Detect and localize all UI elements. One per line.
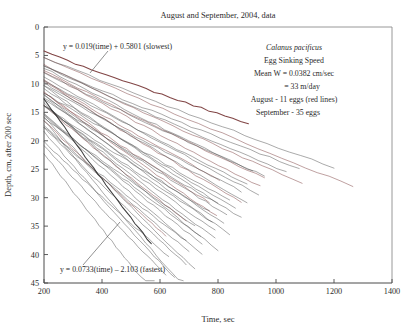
species-name: Calanus pacificus — [266, 43, 322, 52]
y-tick-label: 10 — [31, 80, 39, 89]
y-tick-label: 0 — [35, 23, 39, 32]
september-count: September - 35 eggs — [256, 108, 320, 117]
y-tick-label: 35 — [31, 222, 39, 231]
info-block: Calanus pacificus Egg Sinking Speed Mean… — [251, 43, 338, 117]
x-tick-label: 800 — [212, 287, 224, 296]
trajectory-line — [44, 106, 209, 211]
trajectory-line — [44, 72, 260, 185]
y-tick-label: 40 — [31, 251, 39, 260]
y-tick-label: 20 — [31, 137, 39, 146]
subject-label: Egg Sinking Speed — [264, 56, 324, 65]
trajectory-line — [44, 121, 166, 236]
x-tick-label: 200 — [38, 287, 50, 296]
x-tick-label: 600 — [154, 287, 166, 296]
y-tick-label: 15 — [31, 108, 39, 117]
trajectory-line — [44, 127, 186, 264]
x-axis-title: Time, sec — [201, 314, 234, 324]
leader-slowest — [90, 51, 108, 73]
mean-w-alt-value: = 33 m/day — [284, 82, 320, 91]
figure-container: 051015202530354045 200400600800100012001… — [0, 0, 413, 332]
sinking-speed-chart: 051015202530354045 200400600800100012001… — [0, 0, 413, 332]
x-tick-label: 1200 — [326, 287, 342, 296]
x-tick-label: 1000 — [268, 287, 284, 296]
trajectory-line — [44, 117, 195, 269]
august-count: August - 11 eggs (red lines) — [251, 95, 338, 104]
y-tick-label: 5 — [35, 51, 39, 60]
y-tick-label: 30 — [31, 194, 39, 203]
y-tick-label: 25 — [31, 165, 39, 174]
x-axis-ticks: 200400600800100012001400 — [38, 279, 400, 296]
equation-fastest: y = 0.0733(time) – 2.103 (fastest) — [60, 265, 165, 274]
trajectory-line — [44, 95, 227, 215]
chart-title: August and September, 2004, data — [160, 11, 275, 20]
equation-slowest: y = 0.019(time) + 0.5801 (slowest) — [63, 42, 172, 51]
y-axis-title: Depth, cm, after 200 sec — [3, 113, 13, 197]
x-tick-label: 1400 — [384, 287, 400, 296]
x-tick-label: 400 — [96, 287, 108, 296]
mean-w-value: Mean W = 0.0382 cm/sec — [254, 69, 335, 78]
trajectory-line — [44, 73, 264, 176]
trajectory-line — [44, 80, 247, 183]
